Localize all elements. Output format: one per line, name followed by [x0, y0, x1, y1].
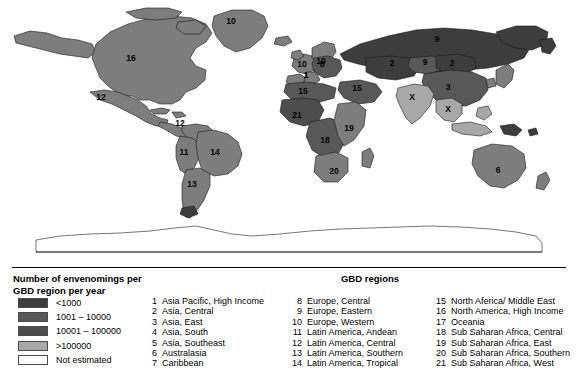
- gbd-region-name: Latin America, Andean: [307, 327, 397, 337]
- gbd-region-entry: 16North America, High Income: [432, 306, 578, 316]
- map-region-label-north-america-16: 16: [126, 53, 136, 63]
- gbd-region-name: Oceania: [451, 317, 485, 327]
- legend-divider-rule: [12, 267, 566, 268]
- legend-panel: Number of envenomings per GBD region per…: [0, 265, 578, 379]
- map-region-label-southern-cone-13: 13: [187, 179, 197, 189]
- legend-scale-title-line2: GBD region per year: [13, 285, 213, 297]
- legend-class-row: <1000: [18, 296, 153, 310]
- map-region-label-west-africa-21: 21: [292, 110, 302, 120]
- gbd-region-name: Latin America, Tropical: [307, 358, 398, 368]
- map-panel: 1016121211141310108192923XX1515211819206: [0, 0, 578, 265]
- gbd-region-number: 14: [288, 358, 302, 368]
- gbd-region-name: Latin America, Southern: [307, 348, 403, 358]
- legend-class-row: >100000: [18, 339, 153, 353]
- gbd-region-number: 5: [143, 338, 157, 348]
- map-region-label-southeast-asia-5: X: [445, 104, 451, 114]
- map-region-label-central-africa-18: 18: [320, 135, 330, 145]
- gbd-region-number: 11: [288, 327, 302, 337]
- gbd-region-number: 16: [432, 306, 446, 316]
- legend-swatch-list: <10001001 – 1000010001 – 100000>100000No…: [18, 296, 153, 367]
- gbd-region-entry: 1Asia Pacific, High Income: [143, 296, 288, 306]
- gbd-region-entry: 15North Aferica/ Middle East: [432, 296, 578, 306]
- gbd-region-entry: 11Latin America, Andean: [288, 327, 435, 337]
- gbd-region-number: 8: [288, 296, 302, 306]
- map-region-label-italy-1: 1: [304, 70, 309, 80]
- gbd-region-name: Europe, Central: [307, 296, 370, 306]
- gbd-region-entry: 20Sub Saharan Africa, Southern: [432, 348, 578, 358]
- gbd-region-name: Sub Saharan Africa, Central: [451, 327, 563, 337]
- gbd-region-entry: 5Asia, Southeast: [143, 338, 288, 348]
- gbd-region-column-1: 1Asia Pacific, High Income2Asia, Central…: [143, 296, 288, 369]
- legend-class-row: 1001 – 10000: [18, 310, 153, 324]
- legend-color-swatch: [18, 298, 48, 308]
- legend-class-label: 1001 – 10000: [56, 312, 111, 322]
- legend-class-label: Not estimated: [56, 355, 112, 365]
- gbd-region-name: North Aferica/ Middle East: [451, 296, 555, 306]
- gbd-region-entry: 6Australasia: [143, 348, 288, 358]
- gbd-region-number: 15: [432, 296, 446, 306]
- gbd-region-column-3: 15North Aferica/ Middle East16North Amer…: [432, 296, 578, 369]
- map-region-label-australia-6: 6: [496, 165, 501, 175]
- map-region-label-mexico-12: 12: [96, 92, 106, 102]
- legend-class-label: <1000: [56, 298, 81, 308]
- map-region-label-western-europe-10: 10: [297, 59, 307, 69]
- legend-scale-title-line1: Number of envenomings per: [13, 273, 213, 285]
- map-region-label-central-europe-8: 8: [320, 59, 325, 69]
- world-map-svg: 1016121211141310108192923XX1515211819206: [0, 0, 578, 265]
- gbd-region-number: 9: [288, 306, 302, 316]
- legend-class-label: >100000: [56, 341, 91, 351]
- gbd-region-column-2: 8Europe, Central9Europe, Eastern10Europe…: [288, 296, 435, 369]
- map-region-label-russia-9: 9: [435, 34, 440, 44]
- gbd-region-name: Asia Pacific, High Income: [162, 296, 264, 306]
- gbd-region-entry: 4Asia, South: [143, 327, 288, 337]
- map-region-label-kazakh-9: 9: [423, 57, 428, 67]
- gbd-region-name: Europe, Eastern: [307, 306, 372, 316]
- gbd-region-number: 17: [432, 317, 446, 327]
- map-region-label-middle-east-15: 15: [352, 83, 362, 93]
- gbd-region-name: Europe, Western: [307, 317, 374, 327]
- map-region-label-central-asia-2: 2: [450, 58, 455, 68]
- map-region-label-west-russia-2: 2: [390, 58, 395, 68]
- gbd-region-number: 21: [432, 358, 446, 368]
- gbd-region-entry: 19Sub Saharan Africa, East: [432, 338, 578, 348]
- gbd-region-entry: 14Latin America, Tropical: [288, 358, 435, 368]
- gbd-region-entry: 13Latin America, Southern: [288, 348, 435, 358]
- gbd-region-entry: 8Europe, Central: [288, 296, 435, 306]
- gbd-region-entry: 9Europe, Eastern: [288, 306, 435, 316]
- gbd-region-entry: 3Asia, East: [143, 317, 288, 327]
- map-region-label-north-africa-15: 15: [298, 86, 308, 96]
- legend-color-swatch: [18, 355, 48, 365]
- map-region-label-east-africa-19: 19: [344, 123, 354, 133]
- gbd-region-name: Sub Saharan Africa, Southern: [451, 348, 570, 358]
- region-asia-pacific-korea: [486, 78, 496, 88]
- gbd-region-number: 12: [288, 338, 302, 348]
- gbd-region-name: North America, High Income: [451, 306, 564, 316]
- gbd-region-number: 13: [288, 348, 302, 358]
- gbd-region-number: 7: [143, 358, 157, 368]
- gbd-region-name: Sub Saharan Africa, West: [451, 358, 554, 368]
- legend-class-row: 10001 – 100000: [18, 324, 153, 338]
- map-region-label-andean-11: 11: [180, 147, 189, 157]
- legend-color-swatch: [18, 341, 48, 351]
- legend-scale-title: Number of envenomings per GBD region per…: [13, 273, 213, 296]
- map-region-label-central-america-12: 12: [175, 118, 185, 128]
- gbd-region-number: 4: [143, 327, 157, 337]
- legend-color-swatch: [18, 326, 48, 336]
- gbd-region-number: 1: [143, 296, 157, 306]
- legend-class-row: Not estimated: [18, 353, 153, 367]
- map-region-label-greenland-10: 10: [226, 16, 236, 26]
- gbd-region-entry: 18Sub Saharan Africa, Central: [432, 327, 578, 337]
- legend-color-swatch: [18, 312, 48, 322]
- gbd-region-name: Latin America, Central: [307, 338, 396, 348]
- gbd-region-number: 18: [432, 327, 446, 337]
- map-region-label-brazil-14: 14: [210, 147, 220, 157]
- gbd-region-number: 3: [143, 317, 157, 327]
- gbd-region-entry: 21Sub Saharan Africa, West: [432, 358, 578, 368]
- gbd-region-name: Sub Saharan Africa, East: [451, 338, 552, 348]
- gbd-region-entry: 2Asia, Central: [143, 306, 288, 316]
- gbd-region-entry: 17Oceania: [432, 317, 578, 327]
- gbd-region-entry: 10Europe, Western: [288, 317, 435, 327]
- gbd-region-name: Asia, East: [162, 317, 203, 327]
- map-region-label-south-asia-4: X: [409, 92, 415, 102]
- legend-class-label: 10001 – 100000: [56, 326, 121, 336]
